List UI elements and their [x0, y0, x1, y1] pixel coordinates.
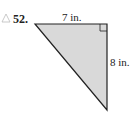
- top-side-label: 7 in.: [62, 11, 82, 23]
- right-side-label: 8 in.: [110, 56, 130, 68]
- triangle-shape: [35, 24, 107, 110]
